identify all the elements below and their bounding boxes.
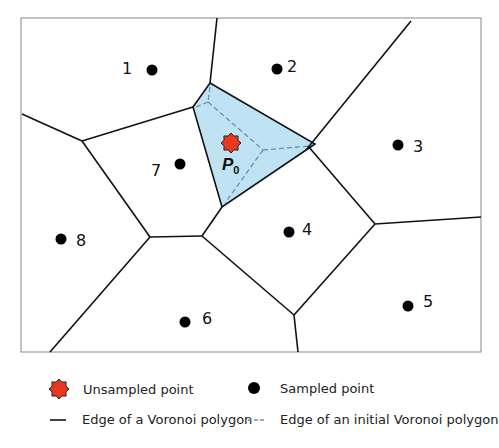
sampled-point-label: 8	[76, 231, 86, 250]
sampled-point-4	[284, 227, 295, 238]
legend-unsampled: Unsampled point	[47, 377, 194, 401]
legend-edge: Edge of a Voronoi polygon	[50, 412, 252, 427]
unsampled-point-star-icon	[221, 133, 241, 153]
legend-sampled-label: Sampled point	[280, 381, 374, 396]
legend-initial-edge-label: Edge of an initial Voronoi polygon	[280, 412, 498, 427]
sampled-point-label: 5	[423, 292, 433, 311]
sampled-point-6	[180, 317, 191, 328]
sampled-point-3	[393, 140, 404, 151]
sampled-point-label: 3	[413, 137, 423, 156]
sampled-point-5	[403, 301, 414, 312]
solid-line-icon	[50, 415, 68, 425]
legend-sampled: Sampled point	[246, 380, 374, 396]
sampled-point-1	[147, 65, 158, 76]
sampled-point-label: 1	[122, 59, 132, 78]
dot-icon	[246, 380, 262, 396]
sampled-point-2	[272, 64, 283, 75]
dashed-line-icon	[248, 415, 264, 425]
sampled-point-label: 2	[287, 57, 297, 76]
legend-initial-edge: Edge of an initial Voronoi polygon	[248, 412, 498, 427]
sampled-point-label: 4	[302, 220, 312, 239]
sampled-point-7	[175, 159, 186, 170]
sampled-point-label: 6	[202, 309, 212, 328]
legend-edge-label: Edge of a Voronoi polygon	[82, 412, 252, 427]
star-icon	[47, 377, 71, 401]
sampled-point-8	[56, 234, 67, 245]
sampled-point-label: 7	[151, 161, 161, 180]
legend-unsampled-label: Unsampled point	[83, 382, 194, 397]
